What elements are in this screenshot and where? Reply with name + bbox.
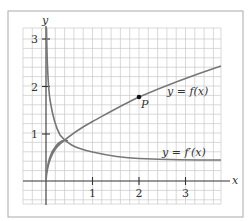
y-tick-1: 1 (31, 128, 38, 141)
point-p-label: P (140, 98, 149, 111)
x-tick-3: 3 (182, 187, 189, 200)
x-tick-2: 2 (136, 187, 143, 200)
y-tick-3: 3 (31, 33, 38, 46)
x-axis-label: x (232, 174, 239, 187)
chart: y x 1 2 3 1 2 3 P y = f(x) y = f′(x) (0, 0, 249, 221)
f-curve-label: y = f(x) (166, 85, 208, 98)
y-axis-label: y (41, 14, 49, 27)
fprime-curve-label: y = f′(x) (161, 146, 206, 159)
x-tick-1: 1 (89, 187, 96, 200)
y-tick-2: 2 (31, 81, 38, 94)
